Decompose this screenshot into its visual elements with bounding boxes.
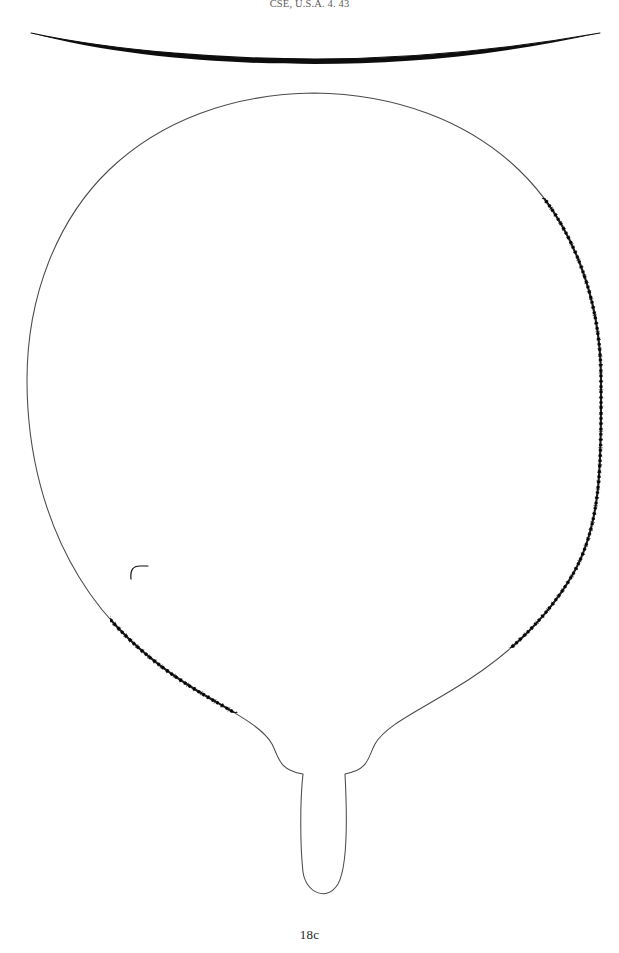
illustration-plate: CSE, U.S.A. 4. 43 18c — [0, 0, 619, 953]
line-drawing-canvas — [0, 0, 619, 953]
